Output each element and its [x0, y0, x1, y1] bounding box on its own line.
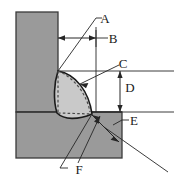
dimension-b-arrowhead-right: [89, 35, 96, 41]
weld-bead-group: [54, 71, 92, 118]
leader-line-a: [58, 18, 96, 71]
dimension-d-arrowhead-bottom: [117, 105, 122, 112]
leader-line-c: [80, 65, 119, 84]
label-e: E: [130, 113, 138, 128]
dimension-b-arrowhead-left: [58, 35, 65, 41]
dimension-b: [58, 30, 108, 47]
dimension-d: [117, 71, 122, 112]
label-c: C: [119, 56, 128, 71]
dimension-d-arrowhead-top: [117, 71, 122, 78]
weld-cross-section-figure: A B C D E F: [0, 0, 174, 179]
label-d: D: [125, 80, 134, 95]
label-f: F: [75, 162, 82, 177]
diagram-canvas: A B C D E F: [0, 0, 174, 179]
vertical-plate: [16, 12, 58, 112]
weld-bead: [54, 71, 92, 118]
label-a: A: [100, 11, 110, 26]
label-b: B: [109, 31, 118, 46]
